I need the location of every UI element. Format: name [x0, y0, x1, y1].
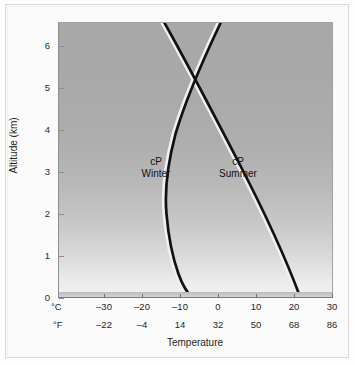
annotation-winter-line2: Winter: [134, 168, 178, 180]
annotation-summer-line1: cP: [211, 156, 265, 168]
x-tick-30: [332, 294, 333, 298]
x-tick-label-c--20: –20: [122, 301, 162, 312]
x-tick-label-f--4: –4: [122, 319, 162, 330]
y-tick-label-5: 5: [34, 83, 50, 93]
x-tick-label-c-20: 20: [274, 301, 314, 312]
x-tick-label-f-50: 50: [236, 319, 276, 330]
x-tick-label-c-10: 10: [236, 301, 276, 312]
y-tick-label-6: 6: [34, 41, 50, 51]
x-tick-label-c--30: –30: [84, 301, 124, 312]
plot-border-right: [332, 22, 333, 298]
x-tick-label-f-14: 14: [160, 319, 200, 330]
y-tick-6: [59, 46, 64, 47]
annotation-summer-line2: Summer: [211, 168, 265, 180]
figure-container: cP Winter cP Summer 0 1 2 3 4 5 6 Altitu…: [0, 0, 355, 365]
y-tick-1: [59, 256, 64, 257]
x-tick-20: [294, 294, 295, 298]
x-axis-unit-fahrenheit: °F: [53, 319, 63, 330]
annotation-winter-line1: cP: [134, 156, 178, 168]
y-tick-label-0: 0: [34, 293, 50, 303]
x-axis-unit-celsius: °C: [51, 301, 62, 312]
y-tick-3: [59, 172, 64, 173]
x-tick-label-f-68: 68: [274, 319, 314, 330]
y-axis-title: Altitude (km): [8, 96, 19, 196]
y-tick-label-1: 1: [34, 251, 50, 261]
x-tick-label-c-30: 30: [312, 301, 352, 312]
x-tick-label-c-0: 0: [198, 301, 238, 312]
x-tick-label-f-32: 32: [198, 319, 238, 330]
y-tick-label-2: 2: [34, 209, 50, 219]
y-tick-label-4: 4: [34, 125, 50, 135]
x-tick--20: [142, 294, 143, 298]
x-tick-0: [218, 294, 219, 298]
plot-area: cP Winter cP Summer: [58, 22, 332, 298]
x-tick-10: [256, 294, 257, 298]
annotation-winter: cP Winter: [134, 156, 178, 180]
annotation-summer: cP Summer: [211, 156, 265, 180]
y-tick-label-3: 3: [34, 167, 50, 177]
y-tick-0: [59, 298, 64, 299]
x-tick-label-f-86: 86: [312, 319, 352, 330]
x-tick--10: [180, 294, 181, 298]
x-tick-label-c--10: –10: [160, 301, 200, 312]
x-tick-label-f--22: –22: [84, 319, 124, 330]
x-axis-line: [58, 297, 333, 298]
y-tick-4: [59, 130, 64, 131]
x-axis-title: Temperature: [58, 337, 332, 348]
plot-border-top: [58, 22, 333, 23]
profile-curves: [58, 22, 332, 298]
y-tick-2: [59, 214, 64, 215]
y-tick-5: [59, 88, 64, 89]
x-tick--30: [104, 294, 105, 298]
